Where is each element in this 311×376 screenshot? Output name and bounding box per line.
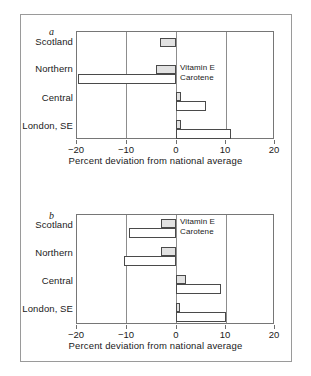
xtick-label-minus-10: −10 (118, 329, 134, 340)
gridline-plus-10 (226, 32, 227, 138)
category-label-northern: Northern (35, 63, 73, 74)
category-label-london-se: London, SE (22, 303, 73, 314)
bar-a-central-carotene (176, 101, 206, 111)
xtick-label-minus-20: −20 (68, 329, 84, 340)
category-label-scotland: Scotland (35, 36, 73, 47)
bar-b-london-se-carotene (176, 312, 226, 322)
xtick-label-zero: 0 (173, 329, 178, 340)
bar-b-central-carotene (176, 284, 221, 294)
category-label-london-se: London, SE (22, 120, 73, 131)
bar-b-central-vitamin-e (176, 275, 186, 284)
legend-label-vitamin-e: Vitamin E (180, 217, 215, 227)
bar-a-northern-vitamin-e (156, 65, 176, 74)
bar-b-london-se-vitamin-e (176, 303, 180, 312)
bar-b-scotland-vitamin-e (161, 219, 176, 228)
plot-area-a: Vitamin E Carotene (76, 31, 274, 139)
category-label-central: Central (42, 92, 73, 103)
xtick-label-plus-20: 20 (269, 329, 280, 340)
legend-label-vitamin-e: Vitamin E (180, 63, 215, 73)
bar-b-northern-vitamin-e (161, 247, 176, 256)
bar-a-london-se-carotene (176, 129, 231, 139)
bar-a-scotland-vitamin-e (160, 38, 176, 47)
legend-b: Vitamin E Carotene (180, 217, 215, 236)
figure-container: a Scotland Northern Central London, SE V… (0, 0, 311, 376)
category-label-central: Central (42, 275, 73, 286)
bar-b-scotland-carotene (129, 228, 176, 238)
category-label-northern: Northern (35, 247, 73, 258)
x-axis-title-b: Percent deviation from national average (0, 340, 311, 351)
xtick-label-minus-20: −20 (68, 144, 84, 155)
legend-label-carotene: Carotene (180, 227, 215, 237)
gridline-minus-10 (126, 215, 127, 323)
bar-a-central-vitamin-e (176, 92, 181, 101)
legend-label-carotene: Carotene (180, 73, 215, 83)
x-axis-title-a: Percent deviation from national average (0, 155, 311, 166)
legend-a: Vitamin E Carotene (180, 63, 215, 82)
gridline-plus-10 (226, 215, 227, 323)
xtick-label-zero: 0 (173, 144, 178, 155)
xtick-label-plus-10: 10 (220, 144, 231, 155)
bar-a-london-se-vitamin-e (176, 120, 181, 129)
category-label-scotland: Scotland (35, 219, 73, 230)
plot-area-b: Vitamin E Carotene (76, 214, 274, 324)
gridline-minus-10 (126, 32, 127, 138)
x-axis-a: −20 −10 0 10 20 (0, 141, 311, 153)
xtick-label-plus-20: 20 (269, 144, 280, 155)
x-axis-b: −20 −10 0 10 20 (0, 326, 311, 338)
xtick-label-plus-10: 10 (220, 329, 231, 340)
bar-b-northern-carotene (124, 256, 176, 266)
bar-a-northern-carotene (78, 74, 176, 84)
xtick-label-minus-10: −10 (118, 144, 134, 155)
